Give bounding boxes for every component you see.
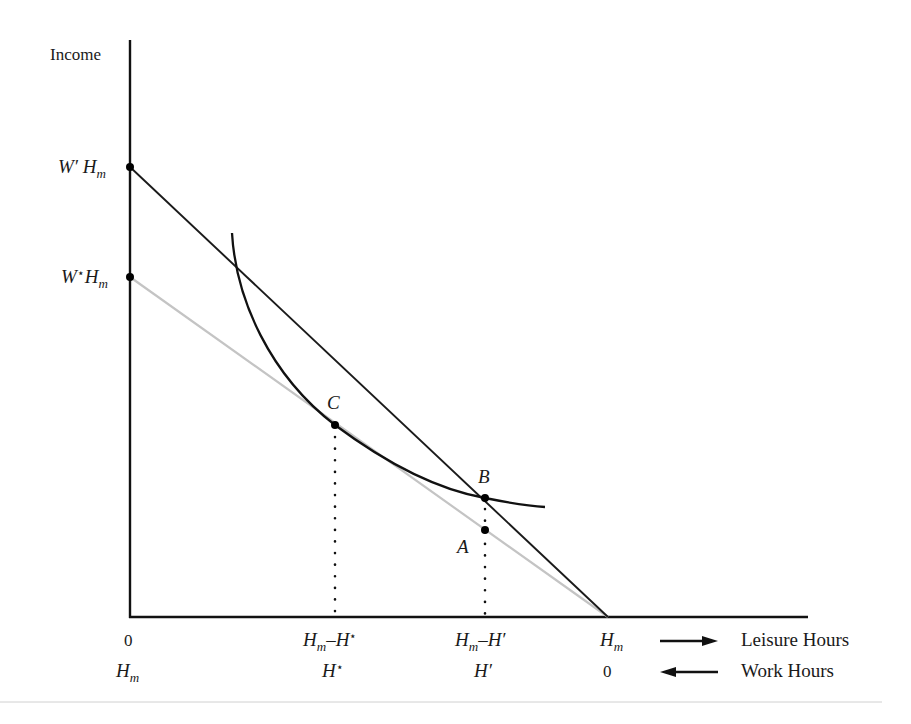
star-symbol: ⋆ — [336, 660, 344, 674]
indifference-curve — [232, 233, 545, 507]
right-arrow-icon — [660, 636, 718, 646]
label-a: A — [455, 536, 469, 557]
subscript-m: m — [469, 639, 478, 654]
labor-leisure-diagram: C B A Income W′ Hm W⋆Hm 0 Hm–H⋆ Hm–H′ Hm… — [0, 0, 911, 724]
subscript-m: m — [99, 276, 108, 291]
x-work-hprime: H′ — [473, 660, 493, 681]
x-work-zero: 0 — [603, 662, 612, 681]
label-c: C — [327, 392, 340, 413]
star-symbol: ⋆ — [77, 266, 85, 280]
minus-h-text: –H — [325, 629, 351, 650]
work-hours-label: Work Hours — [741, 660, 834, 681]
h-text: H — [115, 660, 131, 681]
point-b — [481, 494, 489, 502]
label-b: B — [478, 466, 490, 487]
h-text: H — [454, 629, 470, 650]
point-a — [481, 526, 489, 534]
x-leisure-origin: 0 — [124, 631, 133, 650]
subscript-m: m — [317, 639, 326, 654]
x-leisure-hm-minus-hstar: Hm–H⋆ — [302, 629, 357, 654]
point-w-star-hm — [126, 273, 134, 281]
y-tick-w-star-hm: W⋆Hm — [61, 266, 108, 291]
subscript-m: m — [130, 670, 139, 685]
h-text: H — [321, 660, 337, 681]
point-c — [331, 421, 339, 429]
star-symbol: ⋆ — [349, 629, 357, 643]
y-tick-w-prime-hm: W′ Hm — [58, 156, 106, 181]
w-prime-h-text: W′ H — [58, 156, 98, 177]
subscript-m: m — [614, 639, 623, 654]
x-leisure-hm-minus-hprime: Hm–H′ — [454, 629, 506, 654]
y-axis-label: Income — [50, 45, 101, 64]
old-budget-line — [130, 277, 608, 617]
left-arrow-icon — [660, 667, 718, 677]
point-w-prime-hm — [126, 163, 134, 171]
subscript-m: m — [96, 166, 105, 181]
x-work-hm: Hm — [115, 660, 139, 685]
h-text: H — [302, 629, 318, 650]
h-text: H — [599, 629, 615, 650]
x-leisure-hm: Hm — [599, 629, 623, 654]
x-work-hstar: H⋆ — [321, 660, 344, 681]
new-budget-line — [130, 167, 608, 617]
h-text: H — [84, 266, 100, 287]
leisure-hours-label: Leisure Hours — [741, 629, 849, 650]
minus-h-prime-text: –H′ — [477, 629, 506, 650]
